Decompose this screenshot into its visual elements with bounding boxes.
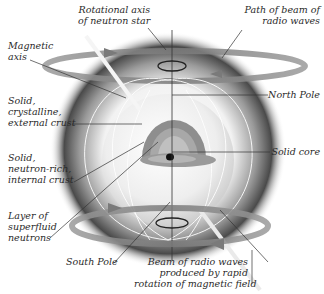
label-line: Beam of radio waves xyxy=(134,256,248,267)
label-solid-core: Solid core xyxy=(271,146,320,157)
label-line: internal crust xyxy=(8,174,74,185)
label-line: neutron-rich, xyxy=(8,163,74,174)
label-magnetic-axis: Magnetic axis xyxy=(8,40,53,62)
label-line: produced by rapid xyxy=(134,267,248,278)
label-external-crust: Solid, crystalline, external crust xyxy=(8,95,75,128)
label-line: Rotational axis xyxy=(78,4,150,15)
label-beam-path: Path of beam of radio waves xyxy=(245,4,320,26)
label-north-pole: North Pole xyxy=(268,89,320,100)
label-line: Layer of xyxy=(8,210,57,221)
label-rotational-axis: Rotational axis of neutron star xyxy=(78,4,150,26)
label-line: Path of beam of xyxy=(245,4,320,15)
label-internal-crust: Solid, neutron-rich, internal crust xyxy=(8,152,74,185)
label-line: South Pole xyxy=(66,256,118,267)
label-south-pole: South Pole xyxy=(66,256,118,267)
solid-core-shape xyxy=(166,154,174,161)
label-line: Solid, xyxy=(8,152,74,163)
label-line: external crust xyxy=(8,117,75,128)
label-line: rotation of magnetic field xyxy=(134,278,248,289)
label-line: axis xyxy=(8,51,53,62)
label-superfluid: Layer of superfluid neutrons xyxy=(8,210,57,243)
label-line: Solid core xyxy=(271,146,320,157)
label-line: superfluid xyxy=(8,221,57,232)
label-line: North Pole xyxy=(268,89,320,100)
label-line: radio waves xyxy=(245,15,320,26)
label-line: Magnetic xyxy=(8,40,53,51)
label-line: Solid, xyxy=(8,95,75,106)
label-line: neutrons xyxy=(8,232,57,243)
label-line: crystalline, xyxy=(8,106,75,117)
label-radio-beam: Beam of radio waves produced by rapid ro… xyxy=(134,256,248,289)
label-line: of neutron star xyxy=(78,15,150,26)
